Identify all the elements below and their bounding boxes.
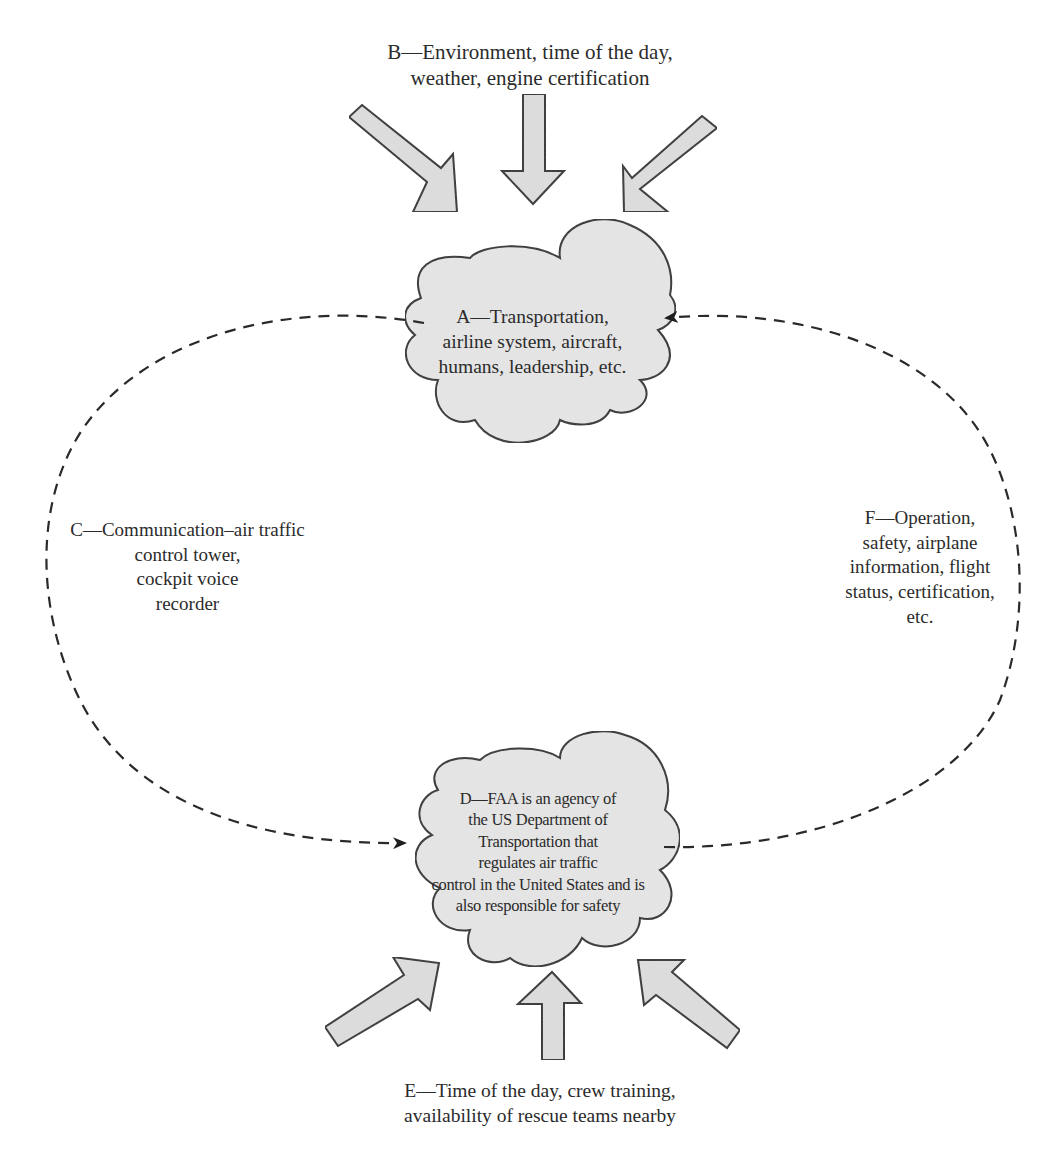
arrow-b-right-icon	[623, 116, 717, 212]
label-f-line: etc.	[820, 605, 1020, 630]
label-f-line: status, certification,	[820, 580, 1020, 605]
label-e-line: E—Time of the day, crew training,	[340, 1078, 740, 1103]
label-f-line: safety, airplane	[820, 531, 1020, 556]
arrow-e-right-icon	[638, 960, 740, 1048]
label-e-crew: E—Time of the day, crew training, availa…	[340, 1078, 740, 1129]
arrow-e-left-icon	[325, 957, 439, 1046]
label-d-line: D—FAA is an agency of	[408, 788, 668, 809]
label-a-line: A—Transportation,	[400, 305, 665, 330]
label-a-line: humans, leadership, etc.	[400, 355, 665, 380]
label-b-environment: B—Environment, time of the day, weather,…	[330, 40, 730, 91]
label-e-line: availability of rescue teams nearby	[340, 1103, 740, 1128]
label-d-line: also responsible for safety	[408, 895, 668, 916]
b-arrows	[349, 94, 717, 212]
arrow-b-center-icon	[502, 94, 564, 204]
e-arrows	[325, 957, 740, 1060]
label-b-line: weather, engine certification	[330, 66, 730, 92]
label-c-communication: C—Communication–air traffic control towe…	[55, 518, 320, 617]
label-a-line: airline system, aircraft,	[400, 330, 665, 355]
label-f-operation: F—Operation, safety, airplane informatio…	[820, 506, 1020, 629]
label-d-faa: D—FAA is an agency of the US Department …	[408, 788, 668, 917]
label-b-line: B—Environment, time of the day,	[330, 40, 730, 66]
label-c-line: C—Communication–air traffic	[55, 518, 320, 543]
label-c-line: cockpit voice	[55, 567, 320, 592]
label-d-line: the US Department of	[408, 809, 668, 830]
arrow-e-center-icon	[518, 972, 581, 1060]
label-d-line: regulates air traffic	[408, 852, 668, 873]
label-c-line: control tower,	[55, 543, 320, 568]
label-f-line: F—Operation,	[820, 506, 1020, 531]
label-d-line: control in the United States and is	[408, 874, 668, 895]
arrow-b-left-icon	[349, 105, 457, 212]
label-d-line: Transportation that	[408, 831, 668, 852]
label-f-line: information, flight	[820, 555, 1020, 580]
label-a-transportation: A—Transportation, airline system, aircra…	[400, 305, 665, 379]
label-c-line: recorder	[55, 592, 320, 617]
